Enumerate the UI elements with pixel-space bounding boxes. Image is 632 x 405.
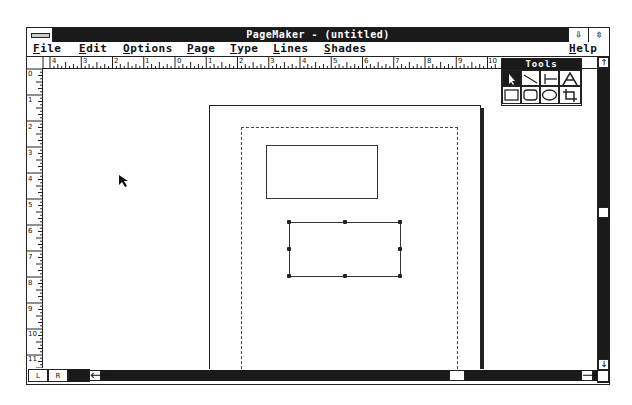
- vertical-scroll-thumb[interactable]: [598, 207, 609, 218]
- vertical-scrollbar[interactable]: 🡑 🡓: [597, 57, 609, 383]
- pointer-icon: [503, 72, 520, 86]
- page[interactable]: [209, 105, 481, 369]
- pagemaker-window: PageMaker - (untitled) ⇩ ⇳ File Edit Opt…: [26, 27, 610, 385]
- pointer-tool[interactable]: [502, 70, 521, 86]
- tools-palette-title[interactable]: Tools: [502, 59, 581, 70]
- mouse-pointer-icon: [118, 174, 130, 188]
- oval-tool[interactable]: [540, 86, 559, 104]
- left-master-page-icon[interactable]: L: [28, 369, 48, 382]
- cropping-tool[interactable]: [559, 86, 581, 104]
- pasteboard[interactable]: [43, 69, 597, 369]
- scroll-up-button[interactable]: 🡑: [598, 57, 609, 68]
- selected-rectangle-shape[interactable]: [289, 222, 401, 277]
- diagonal-line-tool[interactable]: [521, 70, 540, 86]
- menu-edit[interactable]: Edit: [79, 42, 108, 56]
- maximize-button[interactable]: ⇳: [588, 28, 609, 42]
- scroll-down-button[interactable]: 🡓: [598, 359, 609, 370]
- size-box[interactable]: [597, 370, 609, 382]
- resize-handle-top[interactable]: [343, 220, 347, 224]
- menu-file[interactable]: File: [33, 42, 62, 56]
- menu-page[interactable]: Page: [187, 42, 216, 56]
- resize-handle-bottom-right[interactable]: [398, 274, 402, 278]
- menu-bar: File Edit Options Page Type Lines Shades…: [27, 42, 609, 57]
- text-tool[interactable]: [559, 70, 581, 86]
- menu-help[interactable]: Help: [569, 42, 598, 56]
- cropping-icon: [560, 87, 580, 103]
- perpendicular-line-tool[interactable]: [540, 70, 559, 86]
- window-title: PageMaker - (untitled): [27, 28, 609, 42]
- diagonal-line-icon: [522, 72, 539, 86]
- square-rectangle-icon: [503, 87, 520, 103]
- title-bar[interactable]: PageMaker - (untitled) ⇩ ⇳: [27, 28, 609, 42]
- menu-options[interactable]: Options: [123, 42, 173, 56]
- horizontal-scroll-thumb[interactable]: [449, 370, 465, 381]
- scroll-left-button[interactable]: 🡐: [89, 370, 101, 381]
- resize-handle-top-right[interactable]: [398, 220, 402, 224]
- perpendicular-line-icon: [541, 72, 558, 86]
- minimize-button[interactable]: ⇩: [568, 28, 588, 42]
- resize-handle-bottom[interactable]: [343, 274, 347, 278]
- tools-palette: Tools: [501, 58, 582, 106]
- scroll-right-button[interactable]: 🡒: [581, 370, 593, 381]
- rectangle-tool[interactable]: [502, 86, 521, 104]
- horizontal-scrollbar[interactable]: 🡐 🡒: [89, 370, 597, 381]
- text-tool-icon: [560, 72, 580, 86]
- menu-shades[interactable]: Shades: [324, 42, 367, 56]
- rectangle-shape[interactable]: [266, 145, 378, 199]
- oval-icon: [541, 87, 558, 103]
- rounded-rectangle-icon: [522, 87, 539, 103]
- resize-handle-right[interactable]: [398, 247, 402, 251]
- vertical-ruler-ticks: [27, 68, 42, 368]
- resize-handle-left[interactable]: [287, 247, 291, 251]
- menu-lines[interactable]: Lines: [273, 42, 309, 56]
- rounded-rectangle-tool[interactable]: [521, 86, 540, 104]
- page-1-icon[interactable]: [68, 369, 90, 382]
- resize-handle-bottom-left[interactable]: [287, 274, 291, 278]
- resize-handle-top-left[interactable]: [287, 220, 291, 224]
- menu-type[interactable]: Type: [230, 42, 259, 56]
- vertical-ruler[interactable]: 0 1 2 3 4 5 6 7 8 9 10 11: [27, 68, 43, 368]
- right-master-page-icon[interactable]: R: [48, 369, 68, 382]
